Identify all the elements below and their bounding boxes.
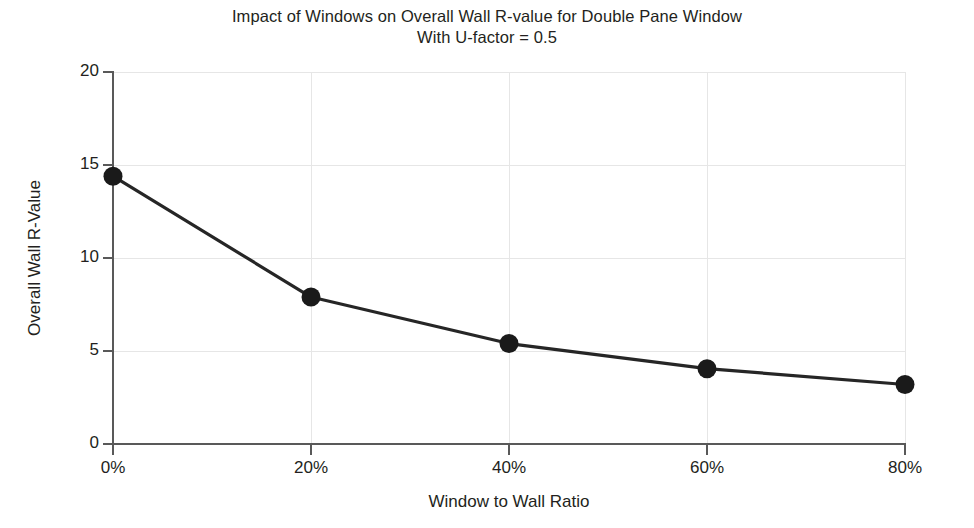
- data-series: 0%: 14.420%: 7.940%: 5.460%: 4.0580%: 3.…: [113, 72, 905, 444]
- chart-title-line-2: With U-factor = 0.5: [0, 27, 974, 48]
- data-point-marker: 80%: 3.2: [896, 375, 915, 394]
- chart-title: Impact of Windows on Overall Wall R-valu…: [0, 6, 974, 48]
- data-point-marker: 20%: 7.9: [302, 288, 321, 307]
- chart-title-line-1: Impact of Windows on Overall Wall R-valu…: [232, 7, 742, 25]
- chart-container: Impact of Windows on Overall Wall R-valu…: [0, 0, 974, 528]
- data-point-marker: 0%: 14.4: [104, 167, 123, 186]
- y-tick-label: 0: [39, 433, 99, 453]
- series-line: [113, 176, 905, 384]
- x-tick-label: 60%: [662, 458, 752, 478]
- x-tick-label: 40%: [464, 458, 554, 478]
- data-point-marker: 60%: 4.05: [698, 359, 717, 378]
- x-tick-mark: [706, 444, 708, 455]
- plot-area: 05101520 0%20%40%60%80% 0%: 14.420%: 7.9…: [113, 72, 905, 444]
- x-tick-mark: [112, 444, 114, 455]
- y-tick-label: 10: [39, 247, 99, 267]
- y-tick-label: 20: [39, 61, 99, 81]
- y-tick-label: 5: [39, 340, 99, 360]
- x-tick-label: 80%: [860, 458, 950, 478]
- x-axis-title: Window to Wall Ratio: [113, 492, 905, 512]
- x-tick-mark: [310, 444, 312, 455]
- x-tick-mark: [904, 444, 906, 455]
- x-tick-mark: [508, 444, 510, 455]
- x-tick-label: 20%: [266, 458, 356, 478]
- data-point-marker: 40%: 5.4: [500, 334, 519, 353]
- x-tick-label: 0%: [68, 458, 158, 478]
- y-tick-label: 15: [39, 154, 99, 174]
